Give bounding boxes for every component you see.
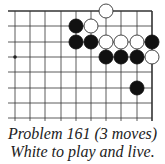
white-stone <box>99 4 113 18</box>
white-stone <box>99 35 113 49</box>
black-stone <box>114 50 128 64</box>
white-stone <box>114 35 128 49</box>
stones <box>69 4 159 95</box>
white-stone <box>130 35 144 49</box>
white-stone <box>84 19 98 33</box>
problem-instruction: White to play and live. <box>0 143 165 161</box>
star-points <box>13 55 17 59</box>
black-stone <box>130 50 144 64</box>
black-stone <box>99 50 113 64</box>
white-stone <box>145 50 159 64</box>
star-point <box>13 55 17 59</box>
go-board-diagram <box>0 0 165 125</box>
black-stone <box>145 35 159 49</box>
black-stone <box>84 35 98 49</box>
black-stone <box>69 19 83 33</box>
problem-title: Problem 161 (3 moves) <box>0 125 165 143</box>
black-stone <box>130 81 144 95</box>
black-stone <box>69 35 83 49</box>
